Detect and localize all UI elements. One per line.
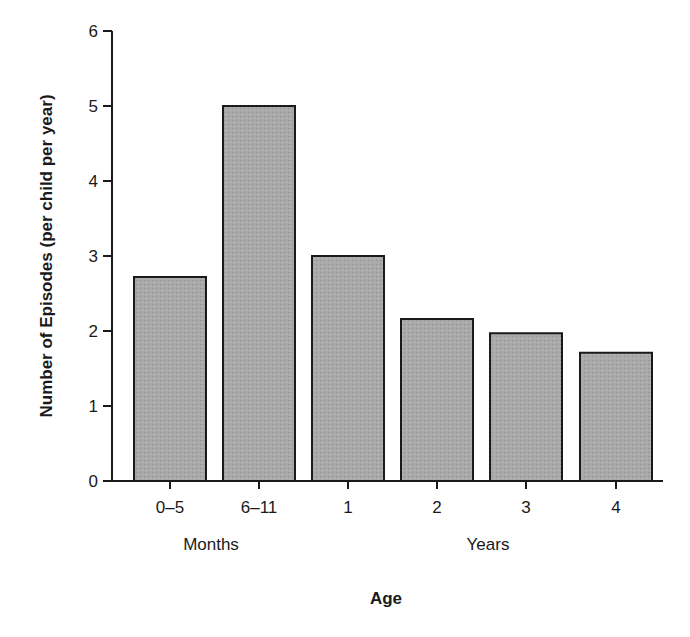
bar-1 — [312, 256, 384, 481]
bar-4 — [580, 353, 652, 481]
y-tick-label: 4 — [89, 172, 98, 191]
y-tick-label: 6 — [89, 22, 98, 41]
bars-group — [134, 106, 652, 481]
y-tick-label: 2 — [89, 322, 98, 341]
group-label-years: Years — [467, 535, 510, 554]
y-tick-label: 1 — [89, 397, 98, 416]
x-axis: 0–56–111234 — [103, 481, 663, 517]
bar-chart: 0123456 0–56–111234 Months Years Age Num… — [0, 0, 690, 637]
x-tick-label: 2 — [432, 498, 441, 517]
bar-6–11 — [223, 106, 295, 481]
bar-2 — [401, 319, 473, 481]
group-label-months: Months — [183, 535, 239, 554]
x-axis-title: Age — [370, 589, 402, 608]
x-tick-label: 1 — [343, 498, 352, 517]
y-tick-label: 3 — [89, 247, 98, 266]
x-tick-label: 0–5 — [156, 498, 184, 517]
x-tick-label: 4 — [611, 498, 620, 517]
bar-0–5 — [134, 277, 206, 481]
y-tick-label: 5 — [89, 97, 98, 116]
y-axis: 0123456 — [89, 22, 112, 491]
y-axis-title: Number of Episodes (per child per year) — [37, 94, 56, 417]
x-tick-label: 6–11 — [241, 498, 278, 517]
y-tick-label: 0 — [89, 472, 98, 491]
x-tick-label: 3 — [521, 498, 530, 517]
bar-3 — [490, 333, 562, 481]
